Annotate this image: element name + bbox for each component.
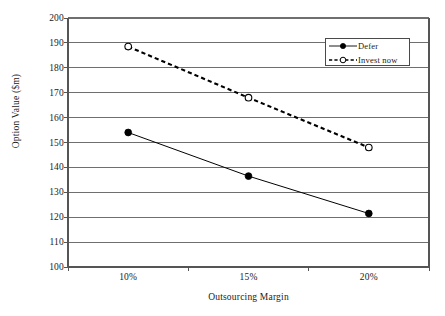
x-axis-tick-label: 20% xyxy=(339,272,399,282)
series-layer xyxy=(125,43,372,217)
y-axis-tick-label: 200 xyxy=(30,13,64,23)
y-axis-tick-label: 160 xyxy=(30,113,64,123)
y-axis-tick-label: 180 xyxy=(30,63,64,73)
y-axis-tick-label: 130 xyxy=(30,187,64,197)
y-axis-tick-labels: 200190180170160150140130120110100 xyxy=(26,0,64,316)
data-point xyxy=(245,173,252,180)
legend-swatch-dashed-open-circle-icon xyxy=(328,54,358,66)
y-axis-tick-label: 100 xyxy=(30,262,64,272)
y-axis-tick-label: 140 xyxy=(30,162,64,172)
y-axis-tick-label: 170 xyxy=(30,88,64,98)
y-axis-title: Option Value ($m) xyxy=(11,51,21,171)
x-axis-tick-label: 10% xyxy=(98,272,158,282)
legend-swatch-solid-filled-circle-icon xyxy=(328,40,358,52)
y-axis-tick-label: 120 xyxy=(30,212,64,222)
data-point xyxy=(245,94,252,101)
y-axis-tick-label: 110 xyxy=(30,237,64,247)
data-point xyxy=(125,129,132,136)
data-point xyxy=(125,43,132,50)
y-axis-tick-label: 150 xyxy=(30,138,64,148)
data-point xyxy=(365,210,372,217)
x-axis-tick-label: 15% xyxy=(219,272,279,282)
legend-item-defer: Defer xyxy=(326,39,409,53)
x-axis-title: Outsourcing Margin xyxy=(68,292,429,302)
legend-label-invest-now: Invest now xyxy=(358,55,398,65)
line-chart: Option Value ($m) 2001901801701601501401… xyxy=(0,0,445,316)
data-point xyxy=(366,144,373,151)
legend: Defer Invest now xyxy=(325,38,410,66)
legend-label-defer: Defer xyxy=(358,41,378,51)
y-axis-tick-label: 190 xyxy=(30,38,64,48)
legend-item-invest-now: Invest now xyxy=(326,53,409,67)
